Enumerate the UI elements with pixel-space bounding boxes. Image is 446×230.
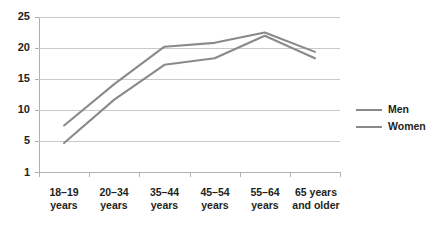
legend-swatch-men-icon bbox=[356, 109, 382, 111]
x-axis-tick-label-18-19-line2: years bbox=[39, 199, 89, 212]
x-axis-tick-mark-1 bbox=[89, 172, 90, 177]
x-axis-tick-label-55-64: 55–64 years bbox=[240, 186, 290, 212]
x-axis-tick-label-45-54-line1: 45–54 bbox=[190, 186, 240, 199]
x-axis-tick-label-55-64-line2: years bbox=[240, 199, 290, 212]
legend-label-women: Women bbox=[388, 121, 426, 132]
x-axis-tick-label-65-plus-line2: and older bbox=[288, 199, 344, 212]
series-lines bbox=[39, 17, 340, 172]
line-chart: 25 20 15 10 5 1 18–19 years 20–34 years bbox=[0, 0, 446, 230]
y-axis-tick-label-5: 5 bbox=[0, 135, 30, 146]
plot-area bbox=[39, 17, 340, 172]
x-axis-tick-label-45-54: 45–54 years bbox=[190, 186, 240, 212]
x-axis-tick-mark-0 bbox=[39, 172, 40, 177]
x-axis-tick-label-35-44-line1: 35–44 bbox=[139, 186, 190, 199]
x-axis-tick-label-55-64-line1: 55–64 bbox=[240, 186, 290, 199]
x-axis-tick-label-65-plus-line1: 65 years bbox=[288, 186, 344, 199]
x-axis-tick-label-65-plus: 65 years and older bbox=[288, 186, 344, 212]
x-axis-tick-label-20-34-line1: 20–34 bbox=[89, 186, 139, 199]
series-line-women bbox=[64, 36, 315, 143]
legend-item-women: Women bbox=[356, 118, 444, 135]
x-axis-tick-mark-5 bbox=[290, 172, 291, 177]
legend-label-men: Men bbox=[388, 104, 409, 115]
x-axis-tick-label-45-54-line2: years bbox=[190, 199, 240, 212]
y-axis-tick-label-1: 1 bbox=[0, 167, 30, 178]
x-axis-tick-mark-2 bbox=[139, 172, 140, 177]
legend: Men Women bbox=[356, 101, 444, 135]
x-axis-tick-label-20-34-line2: years bbox=[89, 199, 139, 212]
x-axis-tick-label-35-44-line2: years bbox=[139, 199, 190, 212]
legend-swatch-women-icon bbox=[356, 126, 382, 128]
x-axis-tick-label-35-44: 35–44 years bbox=[139, 186, 190, 212]
y-axis-tick-label-25: 25 bbox=[0, 11, 30, 22]
y-axis-tick-label-10: 10 bbox=[0, 104, 30, 115]
x-axis-tick-mark-4 bbox=[240, 172, 241, 177]
x-axis-tick-label-18-19-line1: 18–19 bbox=[39, 186, 89, 199]
y-axis-tick-label-15: 15 bbox=[0, 73, 30, 84]
legend-item-men: Men bbox=[356, 101, 444, 118]
y-axis-tick-label-20: 20 bbox=[0, 42, 30, 53]
x-axis-tick-label-20-34: 20–34 years bbox=[89, 186, 139, 212]
x-axis-tick-mark-6 bbox=[340, 172, 341, 177]
x-axis-tick-mark-3 bbox=[190, 172, 191, 177]
x-axis-tick-label-18-19: 18–19 years bbox=[39, 186, 89, 212]
